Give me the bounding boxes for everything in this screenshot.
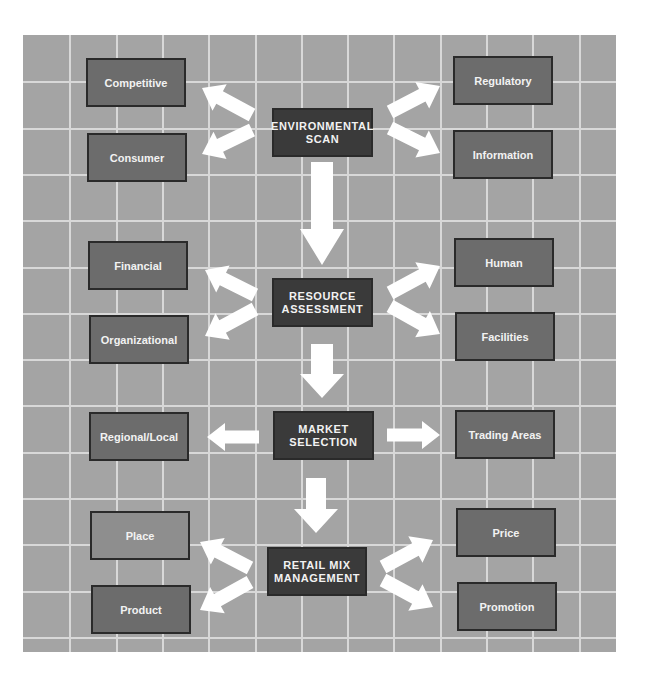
grid-line-horizontal	[23, 498, 616, 500]
node-label-line2: SCAN	[271, 133, 374, 146]
node-label-line2: MANAGEMENT	[274, 572, 360, 585]
node-label-line1: MARKET	[289, 423, 357, 436]
node-place: Place	[90, 511, 190, 560]
node-consumer: Consumer	[87, 133, 187, 182]
node-facilities: Facilities	[455, 312, 555, 361]
node-label-line2: SELECTION	[289, 436, 357, 449]
node-human: Human	[454, 238, 554, 287]
node-label-line1: ENVIRONMENTAL	[271, 120, 374, 133]
node-promotion: Promotion	[457, 582, 557, 631]
grid-line-horizontal	[23, 220, 616, 222]
node-regulatory: Regulatory	[453, 56, 553, 105]
node-price: Price	[456, 508, 556, 557]
node-market-selection: MARKETSELECTION	[273, 411, 374, 460]
node-information: Information	[453, 130, 553, 179]
node-organizational: Organizational	[89, 315, 189, 364]
node-product: Product	[91, 585, 191, 634]
node-environmental-scan: ENVIRONMENTALSCAN	[272, 108, 373, 157]
node-trading-areas: Trading Areas	[455, 410, 555, 459]
node-retail-mix-management: RETAIL MIXMANAGEMENT	[267, 547, 367, 596]
node-label-line1: RETAIL MIX	[274, 559, 360, 572]
node-competitive: Competitive	[86, 58, 186, 107]
node-financial: Financial	[88, 241, 188, 290]
node-resource-assessment: RESOURCEASSESSMENT	[272, 278, 373, 327]
node-label-line2: ASSESSMENT	[282, 303, 364, 316]
node-regional-local: Regional/Local	[89, 412, 189, 461]
grid-line-horizontal	[23, 637, 616, 639]
grid-line-horizontal	[23, 405, 616, 407]
node-label-line1: RESOURCE	[282, 290, 364, 303]
